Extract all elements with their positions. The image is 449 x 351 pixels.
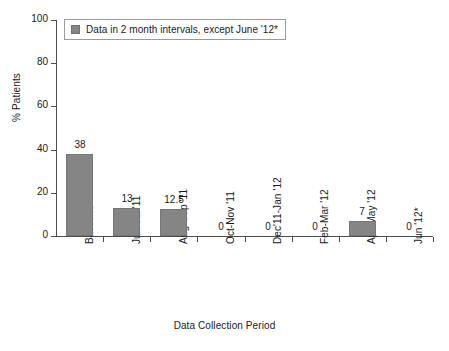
bar-value-label: 0: [293, 221, 337, 232]
y-tick-label: 20: [14, 186, 48, 197]
bar-value-label: 0: [246, 221, 290, 232]
legend-swatch-icon: [71, 25, 80, 34]
bar-value-label: 38: [58, 139, 102, 150]
bar-value-label: 7: [340, 206, 384, 217]
y-tick-mark: [51, 106, 56, 107]
bar-chart: % Patients 100806040200 BaselineJun-Jul …: [0, 0, 449, 351]
bar: [113, 208, 140, 236]
x-tick-mark: [433, 237, 434, 242]
y-tick-mark: [51, 193, 56, 194]
x-tick-mark: [339, 237, 340, 242]
bar: [349, 221, 376, 236]
bar-value-label: 12.5: [152, 194, 196, 205]
x-tick-mark: [197, 237, 198, 242]
legend-label: Data in 2 month intervals, except June '…: [86, 24, 278, 35]
y-tick-label: 40: [14, 143, 48, 154]
bar-value-label: 0: [387, 221, 431, 232]
y-tick-label: 100: [14, 13, 48, 24]
bar-value-label: 13: [105, 193, 149, 204]
x-tick-mark: [292, 237, 293, 242]
x-tick-label: Feb-Mar '12: [319, 189, 330, 244]
x-tick-label: Dec'11-Jan '12: [272, 177, 283, 244]
y-tick-mark: [51, 63, 56, 64]
y-tick-mark: [51, 20, 56, 21]
x-tick-mark: [150, 237, 151, 242]
x-tick-mark: [386, 237, 387, 242]
x-tick-label: Oct-Nov '11: [225, 191, 236, 244]
legend: Data in 2 month intervals, except June '…: [64, 19, 286, 40]
y-tick-label: 80: [14, 56, 48, 67]
x-axis-title: Data Collection Period: [0, 320, 449, 331]
y-tick-label: 60: [14, 99, 48, 110]
y-tick-mark: [51, 150, 56, 151]
x-tick-mark: [245, 237, 246, 242]
x-tick-mark: [103, 237, 104, 242]
y-axis-line: [56, 20, 57, 236]
bar-value-label: 0: [199, 221, 243, 232]
y-axis-title: % Patients: [11, 58, 22, 138]
bar: [66, 154, 93, 236]
bar: [160, 209, 187, 236]
y-tick-label: 0: [14, 229, 48, 240]
